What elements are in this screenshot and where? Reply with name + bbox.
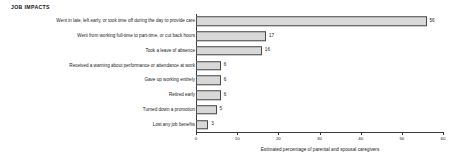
bar-value-label: 56 [430,19,435,24]
x-tick-label: 50 [399,136,404,141]
bar[interactable] [196,76,221,86]
category-label: Took a leave of absence [145,48,195,54]
bar-row: Went from working full-time to part-time… [0,29,456,44]
x-tick-mark [402,132,403,135]
bar[interactable] [196,105,217,115]
bar-value-label: 5 [220,108,223,113]
bar-value-label: 17 [269,34,274,39]
bar[interactable] [196,120,208,130]
bar-wrapper: 3 [196,120,214,130]
x-tick-mark [320,132,321,135]
bar[interactable] [196,31,266,41]
x-tick-label: 20 [276,136,281,141]
x-tick-mark [443,132,444,135]
bar-row: Turned down a promotion5 [0,103,456,118]
bar-row: Took a leave of absence16 [0,44,456,59]
bar[interactable] [196,61,221,71]
bar-wrapper: 6 [196,61,226,71]
job-impacts-bar-chart: JOB IMPACTS Went in late, left early, or… [0,0,456,160]
bar-row: Went in late, left early, or took time o… [0,14,456,29]
x-tick-label: 10 [235,136,240,141]
x-tick-mark [361,132,362,135]
category-label: Gave up working entirely [144,77,195,83]
category-label: Received a warning about performance or … [69,63,195,69]
x-tick-mark [278,132,279,135]
bar-value-label: 6 [224,93,227,98]
bar-wrapper: 17 [196,31,274,41]
x-axis-title: Estimated percentage of parental and spo… [196,147,444,152]
chart-title: JOB IMPACTS [11,4,50,10]
bar-row: Gave up working entirely6 [0,73,456,88]
category-label: Retired early [169,92,195,98]
bar-wrapper: 5 [196,105,222,115]
bar-value-label: 6 [224,78,227,83]
bar[interactable] [196,17,427,27]
x-tick-label: 40 [358,136,363,141]
bar-value-label: 16 [265,49,270,54]
category-label: Went in late, left early, or took time o… [56,18,195,24]
bar-value-label: 6 [224,63,227,68]
category-label: Lost any job benefits [153,122,195,128]
bar-value-label: 3 [211,122,214,127]
bar-row: Lost any job benefits3 [0,117,456,132]
bar-row: Received a warning about performance or … [0,58,456,73]
category-label: Turned down a promotion [143,107,195,113]
bar[interactable] [196,46,262,56]
x-tick-label: 60 [441,136,446,141]
bar-wrapper: 56 [196,17,435,27]
bar-row: Retired early6 [0,88,456,103]
bar-wrapper: 16 [196,46,270,56]
x-tick-mark [196,132,197,135]
x-tick-label: 30 [317,136,322,141]
x-tick-mark [237,132,238,135]
bar[interactable] [196,90,221,100]
x-tick-label: 0 [195,136,197,141]
bar-wrapper: 6 [196,76,226,86]
bar-wrapper: 6 [196,90,226,100]
category-label: Went from working full-time to part-time… [77,33,195,39]
